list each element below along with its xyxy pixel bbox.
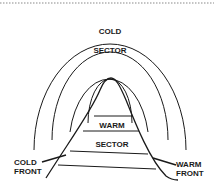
isobar-ring-outer — [34, 44, 186, 150]
diagram-canvas: COLD SECTOR WARM SECTOR COLD FRONT WARM … — [0, 0, 214, 192]
cold-front-label-2: FRONT — [14, 167, 42, 176]
cold-sector-label-2: SECTOR — [93, 46, 126, 55]
cold-sector-label-1: COLD — [99, 27, 122, 36]
isobar-rings — [34, 44, 186, 150]
cold-front-label-1: COLD — [14, 158, 37, 167]
warm-sector-label-2: SECTOR — [95, 140, 128, 149]
band-3 — [70, 151, 148, 154]
warm-sector-label-1: WARM — [99, 121, 125, 130]
band-4 — [58, 165, 156, 169]
cyclone-diagram: COLD SECTOR WARM SECTOR COLD FRONT WARM … — [0, 0, 214, 192]
cold-front-pointer — [42, 155, 66, 162]
warm-front-label-2: FRONT — [176, 169, 204, 178]
warm-front-label-1: WARM — [176, 160, 202, 169]
